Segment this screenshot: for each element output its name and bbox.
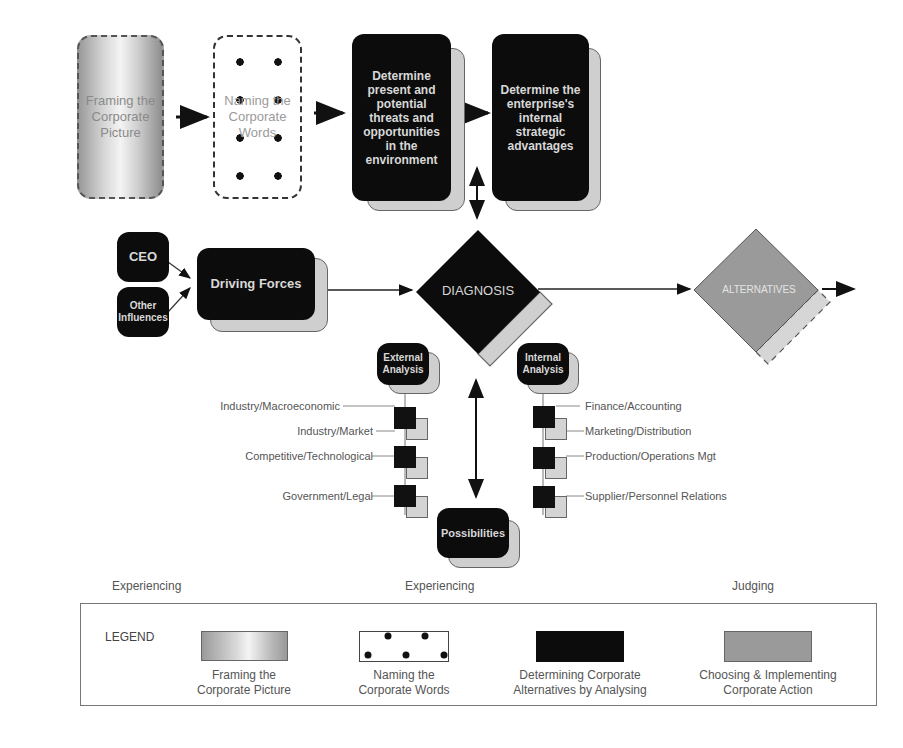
legend-swatch-naming [359,631,449,662]
alternatives-diamond [690,226,840,376]
threats-box: Determine present and potential threats … [352,34,451,201]
external-analysis-box: External Analysis [377,343,429,385]
legend-line: Determining Corporate [505,668,655,683]
legend-label-analysing: Determining Corporate Alternatives by An… [505,668,655,698]
external-node [394,407,416,429]
phase-label: Judging [732,579,774,593]
framing-label: Framing the Corporate Picture [79,93,162,141]
external-node [394,446,416,468]
external-item: Industry/Macroeconomic [220,400,340,412]
internal-item: Marketing/Distribution [585,425,691,437]
naming-label: Naming the Corporate Words [215,93,300,141]
driving-forces-box: Driving Forces [197,248,315,320]
legend-line: Framing the [174,668,314,683]
internal-item: Supplier/Personnel Relations [585,490,727,502]
internal-node [533,406,555,428]
external-node [394,485,416,507]
legend-swatch-analysing [536,631,624,662]
ceo-label: CEO [129,250,157,264]
possibilities-label: Possibilities [441,526,505,540]
legend-label-framing: Framing the Corporate Picture [174,668,314,698]
advantages-label: Determine the enterprise's internal stra… [492,83,589,153]
threats-label: Determine present and potential threats … [352,69,451,167]
legend-label-naming: Naming the Corporate Words [334,668,474,698]
legend-line: Alternatives by Analysing [505,683,655,698]
legend-title: LEGEND [105,630,154,644]
phase-label: Experiencing [112,579,181,593]
internal-item: Finance/Accounting [585,400,682,412]
legend-line: Choosing & Implementing [688,668,848,683]
other-influences-label: Other Influences [117,300,169,324]
legend-line: Corporate Picture [174,683,314,698]
ceo-box: CEO [117,232,169,282]
legend-line: Naming the [334,668,474,683]
phase-label: Experiencing [405,579,474,593]
legend-line: Corporate Words [334,683,474,698]
external-item: Government/Legal [283,490,374,502]
legend-swatch-choosing [724,631,812,662]
internal-node [533,447,555,469]
legend-line: Corporate Action [688,683,848,698]
internal-analysis-label: Internal Analysis [517,352,569,376]
internal-analysis-box: Internal Analysis [517,343,569,385]
alternatives-label: ALTERNATIVES [700,284,818,295]
external-item: Industry/Market [297,425,373,437]
legend: LEGEND Framing the Corporate Picture Nam… [80,603,877,706]
advantages-box: Determine the enterprise's internal stra… [492,34,589,201]
driving-forces-label: Driving Forces [210,277,301,291]
external-item: Competitive/Technological [245,450,373,462]
legend-label-choosing: Choosing & Implementing Corporate Action [688,668,848,698]
framing-box: Framing the Corporate Picture [77,35,164,199]
naming-box: Naming the Corporate Words [213,35,302,199]
external-analysis-label: External Analysis [377,352,429,376]
other-influences-box: Other Influences [117,287,169,337]
internal-node [533,486,555,508]
diagnosis-label: DIAGNOSIS [420,283,536,298]
legend-swatch-framing [201,631,288,661]
possibilities-box: Possibilities [437,508,509,558]
internal-item: Production/Operations Mgt [585,450,716,462]
